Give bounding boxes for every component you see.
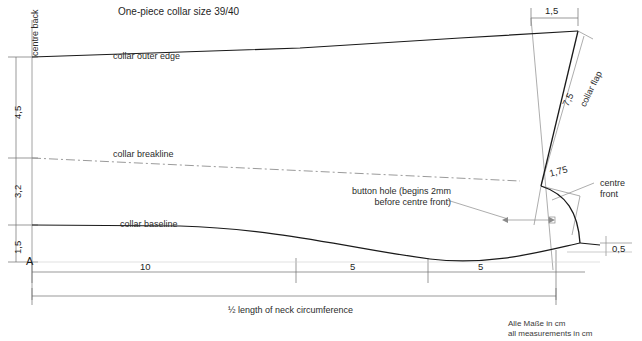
dim-flap-top-width: 1,5 (545, 5, 558, 17)
centre-back-label: centre back (30, 56, 77, 67)
dim-vertical-1-5: 1,5 (12, 254, 25, 266)
footer-note-de: Alle Maße in cm (508, 319, 592, 329)
centre-front-label-line2: front (600, 189, 625, 200)
button-hole-annotation-line2: before centre front) (352, 197, 451, 208)
dim-vertical-3-2-text: 3,2 (12, 185, 24, 198)
collar-outer-edge-label: collar outer edge (113, 51, 180, 62)
dim-flap-length: 7,5 (560, 103, 573, 115)
collar-baseline-label: collar baseline (120, 219, 178, 230)
dim-vertical-1-5-text: 1,5 (12, 241, 24, 254)
collar-baseline-path (32, 225, 580, 261)
dim-front-drop: 0,5 (612, 243, 625, 255)
collar-breakline-label: collar breakline (113, 149, 174, 160)
dim-vertical-4-5: 4,5 (12, 119, 25, 131)
centre-back-label-text: centre back (30, 9, 41, 56)
footer-note-en: all measurements in cm (508, 329, 592, 339)
dim-chain-5-b: 5 (478, 261, 483, 273)
collar-flap-label: collar flap (578, 104, 617, 115)
front-edge-close-path (580, 243, 600, 245)
point-a-label: A (26, 255, 33, 269)
dim-vertical-3-2: 3,2 (12, 198, 25, 210)
centre-front-label-line1: centre (600, 178, 625, 189)
pattern-outline-layer (0, 0, 642, 341)
page-title: One-piece collar size 39/40 (118, 6, 239, 19)
button-hole-annotation-line1: button hole (begins 2mm (352, 186, 451, 197)
button-hole-annotation: button hole (begins 2mm before centre fr… (352, 186, 451, 209)
centre-front-curve-path (541, 186, 580, 243)
centre-front-label: centre front (600, 178, 625, 201)
dim-chain-5-a: 5 (350, 261, 355, 273)
dim-chain-10: 10 (140, 261, 151, 273)
dim-vertical-4-5-text: 4,5 (12, 106, 24, 119)
neck-circumference-label: ½ length of neck circumference (228, 305, 353, 316)
footer-note: Alle Maße in cm all measurements in cm (508, 319, 592, 339)
pattern-sheet: One-piece collar size 39/40 centre back … (0, 0, 642, 341)
